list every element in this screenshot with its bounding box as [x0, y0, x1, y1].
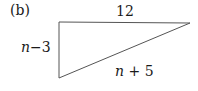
hypotenuse-var: n	[115, 63, 124, 79]
hypotenuse-num: 5	[145, 63, 154, 79]
hypotenuse-label: n + 5	[115, 64, 154, 78]
left-side-num: 3	[42, 39, 51, 55]
left-side-label: n−3	[21, 40, 51, 54]
hypotenuse-op: +	[128, 63, 140, 79]
left-side-op: −	[30, 39, 42, 55]
part-label: (b)	[10, 3, 30, 17]
left-side-var: n	[21, 39, 30, 55]
top-side-label: 12	[116, 4, 134, 18]
